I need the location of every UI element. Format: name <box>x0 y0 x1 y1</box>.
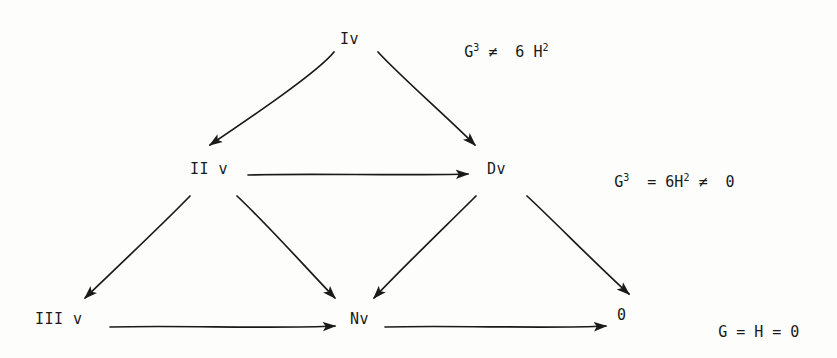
arrow-bottom-left-to-bottom-mid <box>110 326 335 327</box>
equation-middle-operator-2: ≠ 0 <box>689 173 734 191</box>
equation-top: G3 ≠ 6 H2 <box>428 30 548 75</box>
equation-middle: G3 = 6H2 ≠ 0 <box>578 160 735 205</box>
equation-middle-operator-1: = 6 <box>629 173 674 191</box>
node-label-bottom-right: 0 <box>617 308 627 323</box>
node-label-middle-right: Dv <box>487 162 506 177</box>
diagram-page: Iv II v Dv III v Nv 0 G3 ≠ 6 H2 G3 = 6H2… <box>0 0 837 358</box>
equation-bottom: G = H = 0 <box>682 310 799 355</box>
node-label-bottom-mid: Nv <box>350 312 369 327</box>
node-label-top: Iv <box>340 32 359 47</box>
arrow-middle-left-to-middle-right <box>248 174 468 175</box>
arrow-top-to-middle-left <box>210 52 334 145</box>
arrow-middle-left-to-bottom-mid <box>237 196 335 298</box>
equation-top-term-1: G <box>464 43 473 61</box>
equation-top-operator: ≠ 6 <box>479 43 533 61</box>
arrow-bottom-mid-to-bottom-right <box>385 326 606 327</box>
equation-top-exponent-2: 2 <box>542 42 548 53</box>
equation-bottom-expression: G = H = 0 <box>718 323 799 341</box>
arrow-middle-right-to-bottom-right <box>527 196 629 294</box>
node-label-bottom-left: III v <box>35 312 83 327</box>
node-label-middle-left: II v <box>190 162 228 177</box>
arrow-middle-right-to-bottom-mid <box>374 196 476 298</box>
arrow-middle-left-to-bottom-left <box>85 196 190 298</box>
equation-middle-term-1: G <box>614 173 623 191</box>
